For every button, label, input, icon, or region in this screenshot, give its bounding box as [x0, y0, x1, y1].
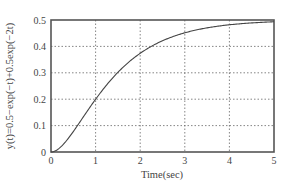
- data-line: [51, 22, 274, 152]
- x-tick-label: 1: [93, 155, 98, 166]
- y-axis-label: y(t)=0.5−exp(−t)+0.5exp(−2t): [4, 22, 16, 149]
- x-tick-label: 3: [182, 155, 187, 166]
- x-tick-label: 2: [138, 155, 143, 166]
- y-tick-label: 0.2: [34, 94, 47, 105]
- chart: 012345 00.10.20.30.40.5 Time(sec) y(t)=0…: [0, 0, 290, 191]
- y-tick-label: 0.3: [34, 67, 47, 78]
- x-tick-label: 0: [49, 155, 54, 166]
- x-tick-label: 4: [227, 155, 232, 166]
- axes-box: [51, 20, 274, 152]
- x-tick-labels: 012345: [49, 155, 277, 166]
- x-tick-label: 5: [272, 155, 277, 166]
- y-tick-label: 0: [41, 147, 46, 158]
- x-axis-label: Time(sec): [141, 169, 184, 181]
- grid-lines: [51, 20, 274, 152]
- y-tick-label: 0.1: [34, 120, 47, 131]
- y-tick-label: 0.4: [34, 41, 47, 52]
- y-tick-label: 0.5: [34, 15, 47, 26]
- y-tick-labels: 00.10.20.30.40.5: [34, 15, 47, 158]
